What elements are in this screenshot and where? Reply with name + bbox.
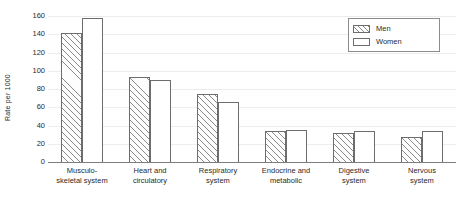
legend: Men Women	[348, 18, 440, 52]
x-axis-line	[48, 162, 456, 163]
bar-group	[61, 17, 103, 163]
bar-chart: Rate per 1000 020406080100120140160 Musc…	[0, 0, 464, 197]
x-axis-category-label: Nervoussystem	[388, 166, 456, 185]
y-axis-tick-label: 100	[32, 67, 45, 75]
y-axis-tick-label: 120	[32, 49, 45, 57]
bar-group	[197, 17, 239, 163]
y-axis-title: Rate per 1000	[4, 58, 18, 138]
x-axis-category-label: Respiratorysystem	[184, 166, 252, 185]
bar-women	[286, 130, 307, 163]
bar-women	[354, 131, 375, 163]
legend-label-men: Men	[376, 25, 391, 33]
bar-women	[218, 102, 239, 163]
y-axis-tick-label: 20	[37, 140, 45, 148]
y-axis-tick-label: 160	[32, 12, 45, 20]
bar-women	[150, 80, 171, 163]
y-axis-tick-label: 140	[32, 31, 45, 39]
bar-women	[422, 131, 443, 163]
x-axis-category-label: Endocrine andmetabolic	[252, 166, 320, 185]
legend-item-women: Women	[353, 36, 434, 47]
legend-item-men: Men	[353, 23, 434, 34]
bar-men	[265, 131, 286, 163]
bar-group	[129, 17, 171, 163]
y-axis-tick-label: 0	[41, 158, 45, 166]
bar-men	[401, 137, 422, 163]
y-axis-tick-label: 60	[37, 104, 45, 112]
legend-swatch-women-icon	[353, 38, 370, 46]
y-axis-tick-label: 80	[37, 85, 45, 93]
x-axis-category-labels: Musculo-skeletal systemHeart andcirculat…	[48, 166, 456, 196]
bar-men	[61, 33, 82, 163]
x-axis-category-label: Heart andcirculatory	[116, 166, 184, 185]
x-axis-category-label: Musculo-skeletal system	[48, 166, 116, 185]
legend-label-women: Women	[376, 38, 402, 46]
bar-group	[265, 17, 307, 163]
bar-women	[82, 18, 103, 163]
bar-men	[129, 77, 150, 163]
bar-men	[333, 133, 354, 163]
x-axis-category-label: Digestivesystem	[320, 166, 388, 185]
y-axis-tick-label: 40	[37, 122, 45, 130]
legend-swatch-men-icon	[353, 25, 370, 33]
bar-men	[197, 94, 218, 163]
